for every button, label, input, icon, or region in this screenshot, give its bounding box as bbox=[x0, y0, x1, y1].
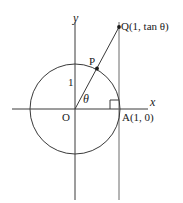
origin-label: O bbox=[62, 112, 70, 123]
point-q-label: Q(1, tan θ) bbox=[121, 21, 169, 32]
point-p-dot bbox=[95, 67, 99, 71]
radius-length-label: 1 bbox=[68, 77, 74, 88]
y-axis-label: y bbox=[73, 12, 78, 24]
point-a-label: A(1, 0) bbox=[122, 112, 154, 123]
angle-theta-label: θ bbox=[83, 93, 89, 105]
x-axis-label: x bbox=[150, 96, 155, 108]
point-p-label: P bbox=[89, 56, 95, 67]
right-angle-marker-icon bbox=[110, 100, 119, 109]
figure-canvas: y x Q(1, tan θ) P 1 θ O A(1, 0) bbox=[0, 0, 183, 203]
